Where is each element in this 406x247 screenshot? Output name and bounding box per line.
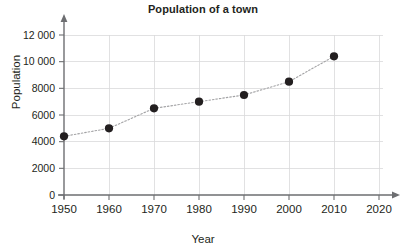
y-tick-marks <box>59 35 64 195</box>
y-tick-label: 12 000 <box>23 29 55 41</box>
x-tick-label: 2020 <box>366 203 392 215</box>
data-point-2000 <box>285 78 293 86</box>
y-tick-label: 2000 <box>32 162 56 174</box>
data-point-1970 <box>150 104 158 112</box>
x-axis-tick-labels: 19501960197019801990200020102020 <box>51 203 392 215</box>
x-tick-label: 2010 <box>321 203 347 215</box>
y-tick-label: 6000 <box>32 109 56 121</box>
x-tick-label: 1980 <box>186 203 212 215</box>
x-axis-label: Year <box>0 233 406 245</box>
y-axis-label: Population <box>10 22 22 142</box>
x-tick-label: 1990 <box>231 203 257 215</box>
chart-figure: Population of a town 0200040006000800010… <box>0 0 406 247</box>
y-tick-label: 0 <box>49 189 55 201</box>
data-point-1960 <box>105 124 113 132</box>
data-point-2010 <box>330 52 338 60</box>
data-point-1950 <box>60 132 68 140</box>
y-tick-label: 8000 <box>32 82 56 94</box>
plot-area: 0200040006000800010 00012 000 1950196019… <box>0 0 406 247</box>
x-tick-label: 1950 <box>51 203 77 215</box>
x-tick-marks <box>64 195 379 200</box>
data-point-1980 <box>195 98 203 106</box>
x-tick-label: 2000 <box>276 203 302 215</box>
x-axis-arrow-icon <box>392 192 400 199</box>
data-point-1990 <box>240 91 248 99</box>
y-axis-tick-labels: 0200040006000800010 00012 000 <box>23 29 55 201</box>
x-tick-label: 1960 <box>96 203 122 215</box>
y-tick-label: 10 000 <box>23 55 55 67</box>
y-tick-label: 4000 <box>32 135 56 147</box>
y-axis-arrow-icon <box>61 14 68 22</box>
x-tick-label: 1970 <box>141 203 167 215</box>
